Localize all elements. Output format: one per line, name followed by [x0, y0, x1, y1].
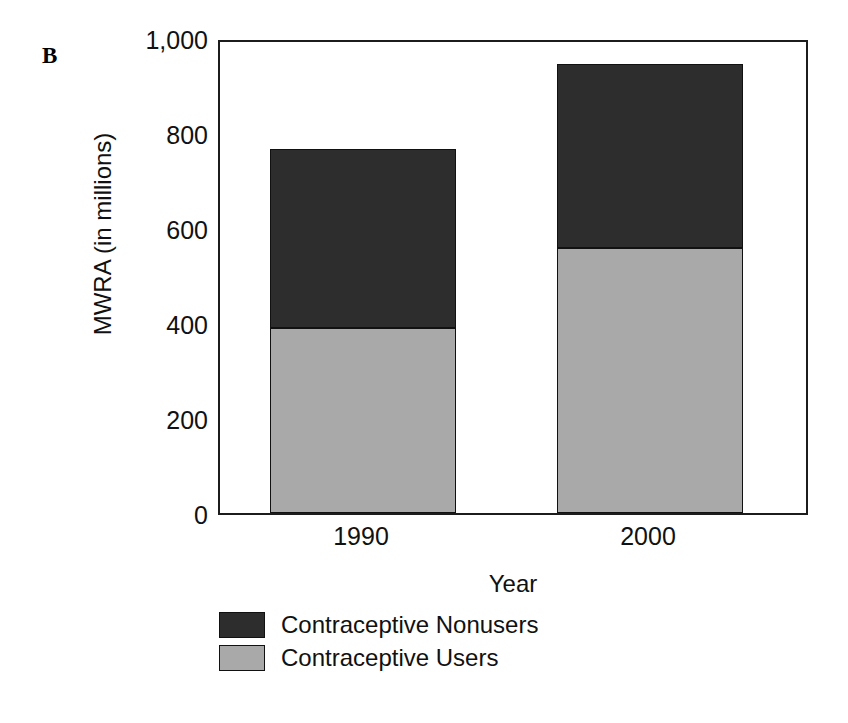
bar-segment-nonusers-2000[interactable]: [557, 64, 743, 248]
bar-segment-users-1990[interactable]: [270, 328, 456, 513]
plot-area: [218, 40, 808, 515]
bar-segment-users-2000[interactable]: [557, 248, 743, 513]
x-tick-label-2000: 2000: [555, 524, 741, 549]
legend-item-nonusers[interactable]: Contraceptive Nonusers: [219, 608, 649, 641]
y-tick-label: 0: [88, 503, 208, 528]
chart-legend: Contraceptive Nonusers Contraceptive Use…: [219, 608, 649, 674]
bar-group-2000[interactable]: [557, 64, 743, 513]
legend-label-nonusers: Contraceptive Nonusers: [281, 613, 538, 637]
y-tick-label: 200: [88, 408, 208, 433]
legend-label-users: Contraceptive Users: [281, 646, 498, 670]
legend-swatch-nonusers-icon: [219, 612, 265, 638]
bar-segment-nonusers-1990[interactable]: [270, 149, 456, 328]
legend-swatch-users-icon: [219, 645, 265, 671]
panel-label-b: B: [42, 44, 57, 67]
bar-group-1990[interactable]: [270, 149, 456, 513]
x-axis-title: Year: [218, 572, 808, 596]
x-tick-label-1990: 1990: [268, 524, 454, 549]
y-tick-label: 1,000: [88, 28, 208, 53]
x-axis-tick-labels: 1990 2000: [218, 524, 808, 558]
y-axis-title: MWRA (in millions): [91, 69, 115, 399]
legend-item-users[interactable]: Contraceptive Users: [219, 641, 649, 674]
stacked-bar-chart-figure: B 1,000 800 600 400 200 0 MWRA (in milli…: [0, 0, 848, 723]
